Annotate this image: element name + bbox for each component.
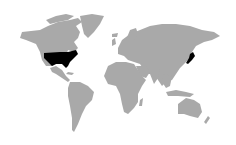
region-greenland: [80, 14, 104, 38]
region-caribbean: [66, 72, 74, 75]
region-iceland: [112, 33, 118, 37]
region-uk: [112, 38, 116, 46]
region-australia: [178, 98, 202, 118]
region-indonesia: [166, 90, 194, 97]
region-new-zealand: [204, 116, 210, 124]
region-southeast-asia: [162, 74, 172, 88]
world-map: [0, 0, 236, 145]
region-south-america: [68, 82, 94, 132]
region-madagascar: [139, 98, 143, 106]
